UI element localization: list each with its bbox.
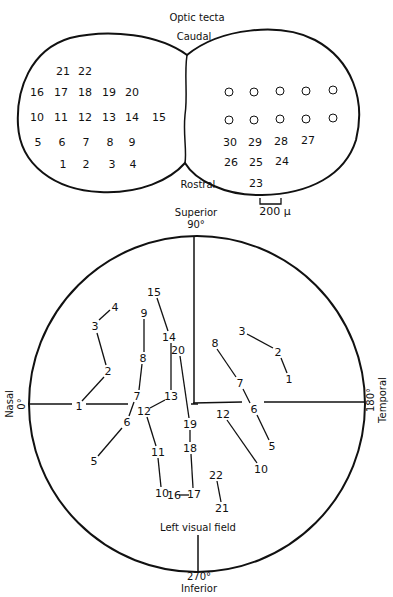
field-point-label: 5 (91, 456, 98, 467)
inferior-label: 270° Inferior (181, 571, 217, 595)
field-point-label: 2 (275, 347, 282, 358)
field-point-label: 8 (140, 353, 147, 364)
unresponsive-site-circle (225, 116, 234, 125)
tecta-point-label: 9 (129, 137, 136, 148)
tecta-point-label: 12 (78, 112, 92, 123)
inferior-text: Inferior (181, 583, 217, 595)
field-point-label: 15 (147, 287, 161, 298)
tecta-point-label: 8 (107, 137, 114, 148)
field-point-label: 7 (134, 391, 141, 402)
superior-text: Superior (175, 207, 217, 219)
tecta-point-label: 19 (102, 87, 116, 98)
field-point-label: 3 (239, 326, 246, 337)
nasal-degree: 0° (16, 398, 28, 409)
field-point-label: 21 (215, 503, 229, 514)
scale-bar (260, 198, 281, 204)
field-point-label: 5 (269, 441, 276, 452)
tecta-point-label: 22 (78, 66, 92, 77)
temporal-label: 180° Temporal (365, 377, 389, 423)
field-point-label: 22 (209, 470, 223, 481)
field-point-label: 1 (286, 374, 293, 385)
tecta-point-label: 4 (130, 159, 137, 170)
unresponsive-site-circle (302, 87, 311, 96)
rostral-label: Rostral (181, 179, 216, 190)
field-point-label: 13 (164, 391, 178, 402)
tecta-point-label: 27 (301, 135, 315, 146)
field-point-label: 20 (171, 345, 185, 356)
field-point-label: 11 (151, 447, 165, 458)
unresponsive-site-circle (276, 87, 285, 96)
nasal-text: Nasal (4, 390, 16, 418)
field-point-label: 6 (124, 417, 131, 428)
tecta-point-label: 15 (152, 112, 166, 123)
field-point-label: 8 (212, 338, 219, 349)
superior-label: Superior 90° (175, 207, 217, 231)
inferior-degree: 270° (187, 571, 211, 583)
field-point-label: 6 (251, 404, 258, 415)
temporal-text: Temporal (377, 377, 389, 423)
tecta-point-label: 25 (249, 157, 263, 168)
left-visual-field-caption: Left visual field (160, 522, 236, 533)
field-point-label: 17 (187, 489, 201, 500)
tecta-point-label: 21 (56, 66, 70, 77)
field-point-label: 14 (162, 332, 176, 343)
field-point-label: 19 (183, 419, 197, 430)
tecta-point-label: 2 (83, 159, 90, 170)
tecta-point-label: 23 (249, 178, 263, 189)
tecta-title: Optic tecta (169, 12, 224, 23)
tecta-point-label: 14 (125, 112, 139, 123)
tecta-point-label: 29 (248, 137, 262, 148)
unresponsive-site-circle (225, 88, 234, 97)
unresponsive-site-circle (329, 86, 338, 95)
tecta-point-label: 6 (59, 137, 66, 148)
tecta-point-label: 11 (54, 112, 68, 123)
tecta-point-label: 7 (83, 137, 90, 148)
superior-degree: 90° (187, 219, 205, 231)
tecta-point-label: 3 (109, 159, 116, 170)
tecta-point-label: 30 (223, 137, 237, 148)
field-point-label: 2 (105, 366, 112, 377)
unresponsive-site-circle (302, 115, 311, 124)
field-point-label: 3 (92, 321, 99, 332)
tecta-midline (184, 55, 187, 163)
trace-lines-nasal (82, 298, 221, 502)
temporal-degree: 180° (365, 388, 377, 412)
caudal-label: Caudal (177, 31, 212, 42)
tecta-point-label: 24 (275, 156, 289, 167)
tecta-point-label: 26 (224, 157, 238, 168)
tecta-point-label: 17 (54, 87, 68, 98)
field-point-label: 10 (254, 464, 268, 475)
tecta-point-label: 20 (125, 87, 139, 98)
field-point-label: 16 (167, 490, 181, 501)
unresponsive-site-circle (276, 115, 285, 124)
tecta-point-label: 16 (30, 87, 44, 98)
field-point-label: 12 (137, 406, 151, 417)
tecta-point-label: 13 (102, 112, 116, 123)
field-point-label: 9 (141, 308, 148, 319)
nasal-label: Nasal 0° (4, 390, 28, 418)
field-point-label: 1 (76, 401, 83, 412)
field-point-label: 4 (112, 302, 119, 313)
scale-bar-label: 200 μ (259, 206, 291, 217)
tecta-point-label: 28 (274, 136, 288, 147)
tecta-point-label: 1 (60, 159, 67, 170)
tecta-outline (18, 30, 359, 195)
unresponsive-site-circle (329, 114, 338, 123)
horizontal-axis-right (193, 402, 242, 403)
unresponsive-site-circle (250, 116, 259, 125)
field-point-label: 18 (183, 443, 197, 454)
tecta-point-label: 18 (78, 87, 92, 98)
tecta-point-label: 5 (35, 137, 42, 148)
unresponsive-site-circle (250, 88, 259, 97)
tecta-point-label: 10 (30, 112, 44, 123)
field-point-label: 7 (237, 378, 244, 389)
field-point-label: 12 (216, 409, 230, 420)
